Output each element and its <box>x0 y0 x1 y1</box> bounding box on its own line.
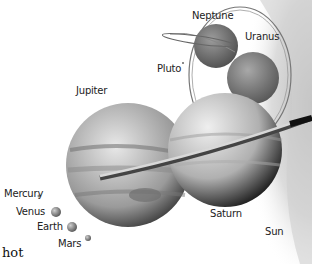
solar-system-illustration: Neptune Uranus Pluto Jupiter Saturn Sun … <box>0 0 312 264</box>
label-jupiter: Jupiter <box>76 85 107 96</box>
label-saturn: Saturn <box>210 208 242 219</box>
pluto-planet <box>182 62 184 64</box>
label-earth: Earth <box>37 221 63 232</box>
label-mercury: Mercury <box>4 188 43 199</box>
saturn-planet <box>168 93 282 207</box>
venus-planet <box>51 207 61 217</box>
label-venus: Venus <box>16 206 45 217</box>
label-neptune: Neptune <box>192 10 233 21</box>
label-pluto: Pluto <box>157 63 181 74</box>
label-mars: Mars <box>58 238 81 249</box>
label-sun: Sun <box>265 226 283 237</box>
caption-fragment: hot <box>2 245 23 260</box>
label-uranus: Uranus <box>245 31 279 42</box>
mars-planet <box>85 235 91 241</box>
earth-planet <box>67 222 77 232</box>
